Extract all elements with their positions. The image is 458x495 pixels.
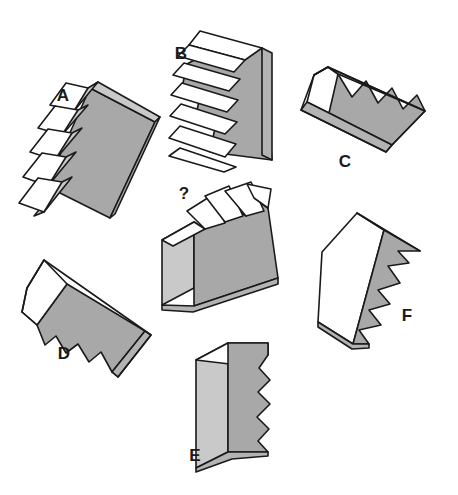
shape-q-label: ? [179,184,189,203]
shape-e-label: E [189,446,200,465]
shape-b-label: B [175,44,187,63]
shape-c-label: C [339,152,351,171]
shape-f-label: F [402,306,412,325]
shape-d-label: D [58,344,70,363]
puzzle-canvas: A B C [0,0,458,495]
spatial-reasoning-puzzle: A B C [0,0,458,495]
shape-e-right-face [228,343,270,452]
shape-b-right-face [262,48,272,160]
shape-e[interactable]: E [189,343,270,472]
shape-a-label: A [57,86,69,105]
